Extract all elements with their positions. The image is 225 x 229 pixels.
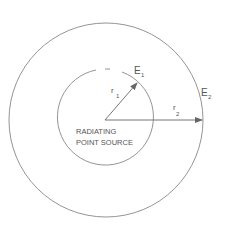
e1-label: E [134, 65, 141, 76]
r1-arrow [105, 83, 137, 120]
source-label-line2: POINT SOURCE [76, 138, 133, 147]
source-label-line1: RADIATING [76, 127, 116, 136]
e2-subscript: 2 [208, 94, 212, 100]
inner-sphere [57, 70, 153, 165]
inverse-square-diagram: E 1 E 2 r 1 r 2 RADIATING POINT SOURCE [0, 0, 225, 229]
e1-subscript: 1 [141, 72, 145, 78]
e2-label: E [201, 87, 208, 98]
r1-label: r [111, 86, 114, 95]
r1-subscript: 1 [116, 93, 120, 99]
r2-subscript: 2 [176, 111, 180, 117]
